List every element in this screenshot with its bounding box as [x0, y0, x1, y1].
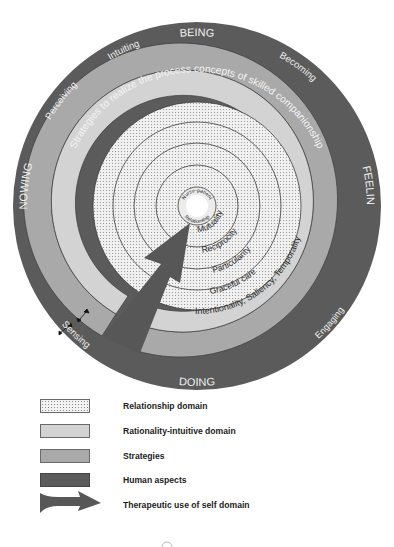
light-swatch [40, 424, 90, 438]
dark-swatch [40, 473, 90, 487]
legend: Relationship domain Rationality-intuitiv… [0, 0, 394, 547]
legend-label: Relationship domain [123, 401, 208, 411]
legend-item-therapeutic: Therapeutic use of self domain [40, 497, 102, 513]
legend-item-human-aspects: Human aspects [40, 472, 90, 488]
legend-label: Therapeutic use of self domain [123, 500, 250, 510]
legend-label: Human aspects [123, 475, 187, 485]
legend-item-strategies: Strategies [40, 448, 90, 464]
legend-label: Rationality-intuitive domain [123, 426, 236, 436]
legend-item-rationality: Rationality-intuitive domain [40, 423, 90, 439]
medium-swatch [40, 449, 90, 463]
legend-label: Strategies [123, 451, 165, 461]
arrow-swatch-icon [40, 491, 102, 515]
dotted-swatch [40, 399, 90, 413]
legend-item-relationship: Relationship domain [40, 398, 90, 414]
